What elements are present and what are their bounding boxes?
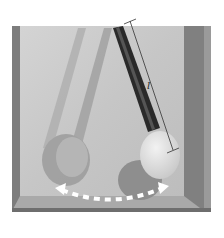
length-label: l xyxy=(147,80,150,91)
pendulum-diagram: l xyxy=(0,0,224,238)
pendulum-illustration xyxy=(0,0,224,238)
box xyxy=(12,26,211,212)
